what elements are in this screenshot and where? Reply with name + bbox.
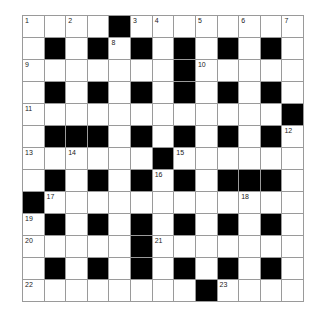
answer-cell[interactable] [239, 148, 261, 170]
answer-cell[interactable] [153, 38, 175, 60]
answer-cell[interactable]: 2 [66, 16, 88, 38]
answer-cell[interactable] [196, 236, 218, 258]
answer-cell[interactable] [239, 214, 261, 236]
answer-cell[interactable] [45, 16, 67, 38]
answer-cell[interactable] [153, 60, 175, 82]
answer-cell[interactable] [88, 280, 110, 302]
answer-cell[interactable] [282, 38, 304, 60]
answer-cell[interactable] [131, 148, 153, 170]
answer-cell[interactable] [66, 104, 88, 126]
answer-cell[interactable] [196, 126, 218, 148]
answer-cell[interactable] [239, 104, 261, 126]
answer-cell[interactable] [23, 38, 45, 60]
answer-cell[interactable] [153, 82, 175, 104]
answer-cell[interactable] [88, 192, 110, 214]
answer-cell[interactable]: 5 [196, 16, 218, 38]
answer-cell[interactable] [239, 82, 261, 104]
answer-cell[interactable] [153, 214, 175, 236]
answer-cell[interactable]: 3 [131, 16, 153, 38]
answer-cell[interactable] [239, 258, 261, 280]
answer-cell[interactable] [261, 16, 283, 38]
answer-cell[interactable]: 1 [23, 16, 45, 38]
answer-cell[interactable]: 9 [23, 60, 45, 82]
answer-cell[interactable] [109, 104, 131, 126]
answer-cell[interactable] [45, 148, 67, 170]
answer-cell[interactable] [109, 214, 131, 236]
answer-cell[interactable] [174, 236, 196, 258]
answer-cell[interactable] [196, 104, 218, 126]
answer-cell[interactable]: 4 [153, 16, 175, 38]
answer-cell[interactable] [23, 170, 45, 192]
answer-cell[interactable] [131, 104, 153, 126]
answer-cell[interactable] [88, 236, 110, 258]
answer-cell[interactable] [239, 236, 261, 258]
answer-cell[interactable] [45, 104, 67, 126]
answer-cell[interactable]: 16 [153, 170, 175, 192]
answer-cell[interactable] [282, 258, 304, 280]
answer-cell[interactable] [174, 192, 196, 214]
answer-cell[interactable] [109, 280, 131, 302]
answer-cell[interactable] [153, 192, 175, 214]
answer-cell[interactable] [261, 236, 283, 258]
answer-cell[interactable] [131, 60, 153, 82]
answer-cell[interactable]: 10 [196, 60, 218, 82]
answer-cell[interactable]: 19 [23, 214, 45, 236]
answer-cell[interactable] [88, 148, 110, 170]
answer-cell[interactable] [261, 280, 283, 302]
answer-cell[interactable] [66, 214, 88, 236]
answer-cell[interactable] [153, 258, 175, 280]
answer-cell[interactable] [109, 60, 131, 82]
answer-cell[interactable] [196, 214, 218, 236]
answer-cell[interactable] [218, 192, 240, 214]
answer-cell[interactable]: 8 [109, 38, 131, 60]
answer-cell[interactable] [23, 258, 45, 280]
answer-cell[interactable] [196, 38, 218, 60]
answer-cell[interactable] [261, 60, 283, 82]
answer-cell[interactable] [218, 60, 240, 82]
answer-cell[interactable] [239, 126, 261, 148]
answer-cell[interactable]: 23 [218, 280, 240, 302]
answer-cell[interactable] [88, 16, 110, 38]
answer-cell[interactable]: 11 [23, 104, 45, 126]
answer-cell[interactable] [109, 126, 131, 148]
answer-cell[interactable] [282, 148, 304, 170]
answer-cell[interactable] [109, 192, 131, 214]
answer-cell[interactable] [196, 258, 218, 280]
answer-cell[interactable] [196, 148, 218, 170]
answer-cell[interactable] [109, 82, 131, 104]
answer-cell[interactable] [282, 236, 304, 258]
answer-cell[interactable] [45, 280, 67, 302]
answer-cell[interactable] [218, 148, 240, 170]
answer-cell[interactable] [174, 104, 196, 126]
answer-cell[interactable] [131, 280, 153, 302]
answer-cell[interactable] [153, 104, 175, 126]
answer-cell[interactable] [109, 148, 131, 170]
answer-cell[interactable] [45, 236, 67, 258]
answer-cell[interactable] [109, 236, 131, 258]
answer-cell[interactable]: 21 [153, 236, 175, 258]
answer-cell[interactable] [23, 82, 45, 104]
answer-cell[interactable] [174, 16, 196, 38]
answer-cell[interactable]: 12 [282, 126, 304, 148]
answer-cell[interactable] [196, 192, 218, 214]
answer-cell[interactable] [174, 280, 196, 302]
answer-cell[interactable] [153, 280, 175, 302]
answer-cell[interactable] [282, 170, 304, 192]
answer-cell[interactable] [218, 16, 240, 38]
answer-cell[interactable] [153, 126, 175, 148]
answer-cell[interactable] [66, 258, 88, 280]
answer-cell[interactable]: 20 [23, 236, 45, 258]
answer-cell[interactable] [196, 170, 218, 192]
answer-cell[interactable] [282, 60, 304, 82]
answer-cell[interactable] [66, 82, 88, 104]
answer-cell[interactable]: 17 [45, 192, 67, 214]
answer-cell[interactable] [109, 258, 131, 280]
answer-cell[interactable] [218, 236, 240, 258]
answer-cell[interactable] [66, 192, 88, 214]
answer-cell[interactable] [261, 148, 283, 170]
answer-cell[interactable] [196, 82, 218, 104]
answer-cell[interactable] [23, 126, 45, 148]
answer-cell[interactable] [282, 192, 304, 214]
answer-cell[interactable] [66, 236, 88, 258]
answer-cell[interactable]: 6 [239, 16, 261, 38]
